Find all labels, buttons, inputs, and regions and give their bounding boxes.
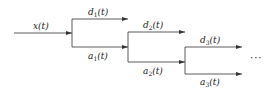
- a1-label: a1(t): [88, 52, 108, 62]
- a3-label: a3(t): [200, 78, 220, 88]
- a2-label: a2(t): [143, 67, 163, 77]
- d2-label: d2(t): [143, 21, 163, 31]
- decomposition-diagram: x(t) d1(t) a1(t) d2(t) a2(t) d3(t) a3(t)…: [0, 0, 270, 91]
- input-label: x(t): [33, 22, 49, 31]
- continuation-ellipsis: ···: [250, 52, 263, 63]
- diagram-lines: [0, 0, 270, 91]
- d3-label: d3(t): [200, 36, 220, 46]
- d1-label: d1(t): [88, 8, 108, 18]
